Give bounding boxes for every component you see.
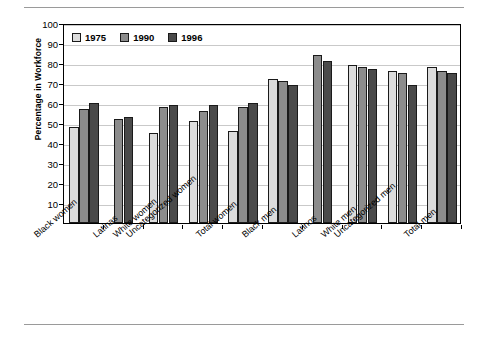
chart-legend: 1975 1990 1996	[68, 30, 206, 45]
legend-label-1975: 1975	[85, 32, 106, 43]
legend-swatch-1990-icon	[120, 33, 129, 42]
y-axis-tick-mark	[59, 184, 63, 185]
legend-item-1990: 1990	[120, 32, 154, 43]
bar-chart: Percentage in Workforce 1020304050607080…	[0, 0, 488, 342]
y-axis-tick-label: 50	[34, 119, 58, 130]
legend-swatch-1975-icon	[72, 33, 81, 42]
bar	[238, 107, 248, 223]
x-axis-tick-mark	[461, 225, 462, 229]
y-axis-tick-label: 10	[34, 199, 58, 210]
x-axis-tick-mark	[182, 225, 183, 229]
legend-swatch-1996-icon	[168, 33, 177, 42]
chart-page: Percentage in Workforce 1020304050607080…	[0, 0, 488, 342]
legend-item-1996: 1996	[168, 32, 202, 43]
bar	[79, 109, 89, 223]
bar	[199, 111, 209, 223]
legend-label-1996: 1996	[181, 32, 202, 43]
y-axis-tick-label: 30	[34, 159, 58, 170]
bar	[248, 103, 258, 223]
y-axis-tick-label: 40	[34, 139, 58, 150]
bar	[169, 105, 179, 223]
legend-label-1990: 1990	[133, 32, 154, 43]
x-axis-tick-mark	[381, 225, 382, 229]
y-axis-tick-mark	[59, 144, 63, 145]
y-axis-tick-label: 20	[34, 179, 58, 190]
bar	[189, 121, 199, 223]
bar	[89, 103, 99, 223]
legend-item-1975: 1975	[72, 32, 106, 43]
bar	[209, 105, 219, 223]
bar	[124, 117, 134, 223]
bar	[114, 119, 124, 223]
y-axis-tick-mark	[59, 164, 63, 165]
x-axis-tick-mark	[222, 225, 223, 229]
x-axis-tick-labels: Black womenLatinasWhite womenUncategoriz…	[0, 0, 488, 120]
y-axis-tick-mark	[59, 124, 63, 125]
